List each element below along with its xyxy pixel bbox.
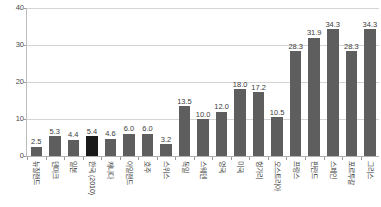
y-axis-tick-label: 0 — [4, 152, 24, 160]
bar-slot: 6.0 — [120, 8, 139, 156]
bar-value-label: 28.3 — [344, 43, 359, 51]
x-axis-tick-mark — [212, 157, 213, 160]
x-axis-category-label: 한국 (2010) — [88, 161, 95, 195]
x-axis-category-label: 영국 — [218, 161, 225, 173]
bars-container: 2.55.34.45.44.66.06.03.213.510.012.018.0… — [27, 8, 379, 156]
bar[interactable]: 5.4 — [86, 136, 97, 156]
x-axis-category-label: 캐나다 — [107, 161, 114, 179]
x-axis-category-label: 뉴질랜드 — [33, 161, 40, 185]
bar[interactable]: 28.3 — [346, 51, 357, 156]
bar-slot: 4.4 — [64, 8, 83, 156]
bar[interactable]: 10.5 — [271, 117, 282, 156]
bar-slot: 34.3 — [324, 8, 343, 156]
bar-value-label: 13.5 — [177, 98, 192, 106]
y-axis-tick-label: 30 — [4, 41, 24, 49]
bar-slot: 5.3 — [46, 8, 65, 156]
bar[interactable]: 6.0 — [123, 134, 134, 156]
x-axis-category-label: 미국 — [237, 161, 244, 173]
bar-slot: 10.0 — [194, 8, 213, 156]
bar[interactable]: 34.3 — [364, 29, 375, 156]
x-axis-label-slot: 프랑스 — [286, 161, 305, 207]
x-axis-label-slot: 핀란드 — [305, 161, 324, 207]
x-axis-tick-mark — [249, 157, 250, 160]
bar[interactable]: 2.5 — [31, 147, 42, 156]
bar-slot: 4.6 — [101, 8, 120, 156]
x-axis-category-label: 핀란드 — [311, 161, 318, 179]
bar-value-label: 4.4 — [68, 131, 78, 139]
x-axis-label-slot: 오스트리아 — [268, 161, 287, 207]
bar[interactable]: 10.0 — [197, 119, 208, 156]
bar-slot: 28.3 — [342, 8, 361, 156]
x-axis-label-slot: 독일 — [175, 161, 194, 207]
x-axis-tick-mark — [342, 157, 343, 160]
x-axis-category-label: 오스트리아 — [274, 161, 281, 191]
bar-value-label: 10.0 — [196, 111, 211, 119]
x-axis-label-slot: 미국 — [231, 161, 250, 207]
x-axis-tick-mark — [27, 157, 28, 160]
x-axis-tick-mark — [194, 157, 195, 160]
bar-value-label: 34.3 — [363, 21, 378, 29]
x-axis-category-label: 아일랜드 — [125, 161, 132, 185]
x-axis-category-label: 독일 — [181, 161, 188, 173]
x-axis-tick-mark — [286, 157, 287, 160]
y-axis-tick-label: 20 — [4, 78, 24, 86]
y-axis-tick-label: 10 — [4, 115, 24, 123]
x-axis-tick-mark — [46, 157, 47, 160]
x-axis-tick-mark — [138, 157, 139, 160]
x-axis-category-label: 헝가리 — [255, 161, 262, 179]
bar[interactable]: 13.5 — [179, 106, 190, 156]
bar-slot: 31.9 — [305, 8, 324, 156]
y-axis-tick-mark — [23, 119, 26, 120]
bar[interactable]: 3.2 — [160, 144, 171, 156]
bar-slot: 18.0 — [231, 8, 250, 156]
bar-value-label: 10.5 — [270, 109, 285, 117]
bar-value-label: 6.0 — [142, 125, 152, 133]
x-axis-tick-mark — [268, 157, 269, 160]
bar-value-label: 3.2 — [161, 136, 171, 144]
x-axis-tick-mark — [64, 157, 65, 160]
bar[interactable]: 31.9 — [308, 38, 319, 156]
bar[interactable]: 5.3 — [49, 136, 60, 156]
bar[interactable]: 18.0 — [234, 89, 245, 156]
x-axis-tick-mark — [324, 157, 325, 160]
bar-value-label: 17.2 — [251, 84, 266, 92]
x-axis-label-slot: 스페인 — [324, 161, 343, 207]
bar-value-label: 5.4 — [87, 128, 97, 136]
x-axis-tick-mark — [175, 157, 176, 160]
bar-value-label: 34.3 — [325, 21, 340, 29]
bar[interactable]: 6.0 — [142, 134, 153, 156]
x-axis-category-label: 프랑스 — [292, 161, 299, 179]
x-axis-tick-mark — [231, 157, 232, 160]
x-axis-label-slot: 영국 — [212, 161, 231, 207]
x-axis-label-slot: 헝가리 — [249, 161, 268, 207]
bar-value-label: 6.0 — [124, 125, 134, 133]
bar[interactable]: 17.2 — [253, 92, 264, 156]
chart-title-strip — [0, 0, 381, 3]
x-axis-category-label: 그리스 — [366, 161, 373, 179]
x-axis-category-label: 호주 — [144, 161, 151, 173]
bar-value-label: 12.0 — [214, 103, 229, 111]
bar-slot: 12.0 — [212, 8, 231, 156]
y-axis-tick-mark — [23, 8, 26, 9]
bar[interactable]: 34.3 — [327, 29, 338, 156]
x-axis-category-label: 포르투갈 — [348, 161, 355, 185]
x-axis-label-slot: 포르투갈 — [342, 161, 361, 207]
y-axis-tick-mark — [23, 82, 26, 83]
bar[interactable]: 12.0 — [216, 112, 227, 156]
x-axis-label-slot: 덴마크 — [46, 161, 65, 207]
bar-slot: 34.3 — [361, 8, 380, 156]
x-axis-label-slot: 그리스 — [361, 161, 380, 207]
bar-slot: 17.2 — [249, 8, 268, 156]
bar-slot: 28.3 — [286, 8, 305, 156]
x-axis-category-label: 덴마크 — [51, 161, 58, 179]
bar[interactable]: 28.3 — [290, 51, 301, 156]
x-axis-tick-mark — [305, 157, 306, 160]
bar-slot: 3.2 — [157, 8, 176, 156]
x-axis-label-slot: 스위스 — [157, 161, 176, 207]
bar[interactable]: 4.4 — [68, 140, 79, 156]
x-axis-category-label: 스페인 — [329, 161, 336, 179]
x-axis-label-slot: 아일랜드 — [120, 161, 139, 207]
x-axis-category-label: 스웨덴 — [200, 161, 207, 179]
x-axis-tick-mark — [83, 157, 84, 160]
bar[interactable]: 4.6 — [105, 139, 116, 156]
